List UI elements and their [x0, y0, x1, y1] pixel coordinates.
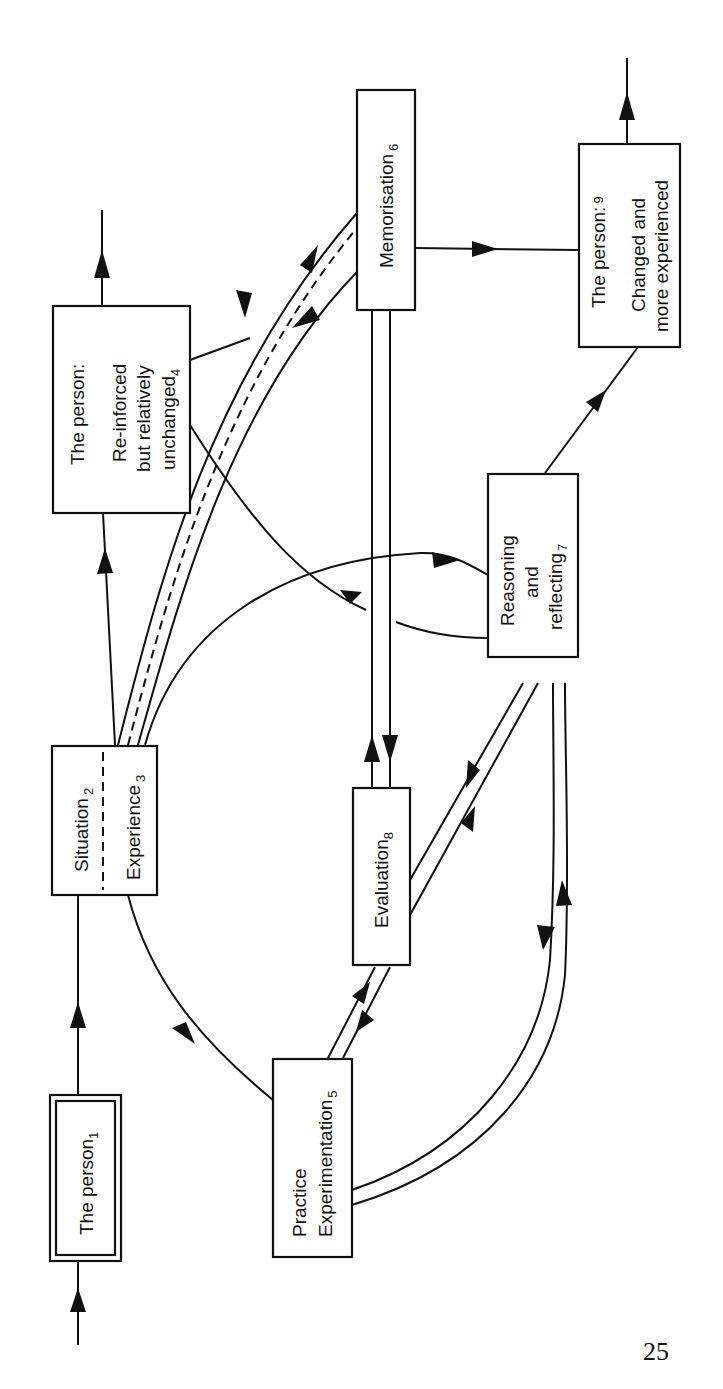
node4-line4: unchanged — [158, 376, 179, 470]
node9-subscript: 9 — [591, 196, 606, 203]
node-person-reinforced-4: The person: Re-inforced but relatively u… — [53, 306, 190, 513]
edge-person9-output — [619, 58, 635, 143]
node3-subscript: 3 — [133, 775, 148, 782]
edge-input-to-person1 — [70, 1262, 86, 1345]
edge-evaluation-reasoning — [410, 683, 538, 915]
node8-label: Evaluation — [371, 839, 392, 928]
node5-subscript: 5 — [325, 1090, 340, 1097]
arrowhead-down-icon — [382, 735, 398, 762]
node1-subscript: 1 — [86, 1132, 101, 1139]
node7-line1: Reasoning — [497, 535, 518, 626]
arrowhead-down-icon — [236, 290, 252, 318]
svg-text:The person:9: The person:9 — [588, 196, 609, 308]
edge-experience-to-practice — [128, 895, 273, 1100]
arrowhead-down-icon — [172, 1022, 195, 1044]
node9-line2: Changed and — [628, 198, 649, 312]
node-memorisation-6: Memorisation6 — [357, 90, 415, 310]
arrowhead-down-icon — [466, 760, 480, 788]
edge-person4-memorisation — [190, 338, 250, 360]
edge-reasoning-to-person9 — [545, 347, 638, 473]
node4-line2: Re-inforced — [109, 364, 130, 462]
node-the-person-1: The person1 — [50, 1095, 121, 1261]
page-number: 25 — [643, 1337, 669, 1366]
arrowhead-up-icon — [94, 250, 110, 278]
node7-line3: reflecting — [545, 553, 566, 630]
arrowhead-up-icon — [70, 1288, 86, 1312]
node3-label: Experience — [123, 785, 144, 880]
node1-label: The person — [76, 1139, 97, 1235]
node2-label: Situation — [71, 798, 92, 872]
node6-subscript: 6 — [386, 144, 401, 151]
edge-person4-output — [94, 210, 110, 305]
node-reasoning-reflecting-7: Reasoning and reflecting7 — [488, 474, 578, 657]
arrowhead-right-icon — [472, 241, 498, 257]
edge-practice-evaluation — [328, 967, 390, 1058]
arrowhead-down-icon — [537, 925, 555, 950]
edge-memorisation-evaluation — [364, 310, 398, 787]
edge-experience-to-reasoning — [145, 552, 488, 745]
arrowhead-up-icon — [364, 735, 380, 762]
arrowhead-icon — [300, 245, 318, 273]
arrowhead-up-icon — [97, 548, 113, 574]
arrowhead-up-icon — [556, 880, 572, 906]
node-person-changed-9: The person:9 Changed and more experience… — [579, 144, 680, 347]
node-situation-experience: Situation2 Experience3 — [52, 746, 157, 895]
node-evaluation-8: Evaluation8 — [353, 788, 410, 965]
arrowhead-icon — [292, 306, 320, 328]
node2-subscript: 2 — [81, 788, 96, 795]
arrowhead-down-icon — [356, 1010, 374, 1032]
node9-line3: more experienced — [651, 180, 672, 332]
node6-label: Memorisation — [376, 154, 397, 268]
edge-situation-to-person4 — [97, 513, 115, 745]
experiential-learning-diagram: The person1 Situation2 Experience3 The p… — [0, 0, 723, 1389]
node4-line3: but relatively — [133, 365, 154, 472]
node5-line2: Experimentation — [315, 1100, 336, 1237]
edge-person1-to-situation — [70, 895, 86, 1094]
arrowhead-up-icon — [619, 92, 635, 120]
node9-line1: The person: — [588, 207, 609, 308]
node7-subscript: 7 — [555, 544, 570, 551]
arrowhead-up-icon — [70, 1002, 86, 1028]
edge-memorisation-to-person9 — [415, 241, 578, 257]
node-practice-experimentation-5: Practice Experimentation5 — [273, 1059, 352, 1257]
node5-line1: Practice — [289, 1168, 310, 1237]
arrowhead-right-icon — [432, 552, 460, 568]
node4-line1: The person: — [67, 364, 88, 465]
node4-subscript: 4 — [168, 369, 183, 376]
node8-subscript: 8 — [381, 832, 396, 839]
arrowhead-icon — [586, 390, 606, 412]
node7-line2: and — [521, 566, 542, 598]
arrowhead-up-icon — [352, 982, 370, 1004]
